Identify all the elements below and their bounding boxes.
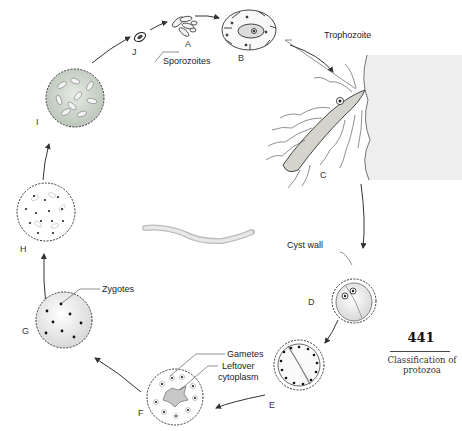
stage-label-a: A <box>185 39 191 49</box>
stage-label-e: E <box>269 400 275 410</box>
stage-label-h: H <box>20 244 27 254</box>
stage-label-i: I <box>36 117 39 127</box>
stage-i-mature-cyst <box>46 69 104 127</box>
callout-cyst-wall: Cyst wall <box>287 240 323 250</box>
callout-leftover-cytoplasm-1: Leftover <box>222 361 255 371</box>
stage-a-sporozoites <box>171 15 197 38</box>
stage-j-oocyst <box>133 31 147 44</box>
stage-label-j: J <box>132 47 137 57</box>
stage-label-d: D <box>308 297 315 307</box>
stage-d-cyst <box>332 252 376 323</box>
stage-f-gametes <box>147 354 225 425</box>
callout-gametes: Gametes <box>227 349 264 359</box>
page-rule <box>390 351 450 352</box>
stage-h-cyst <box>17 183 75 241</box>
page-number: 441 <box>395 330 447 345</box>
callout-leftover-cytoplasm-2: cytoplasm <box>218 372 259 382</box>
stage-b-host-cells <box>222 10 276 50</box>
stage-c-trophozoite <box>266 40 462 188</box>
stage-e-cyst <box>274 340 324 390</box>
callout-sporozoites: Sporozoites <box>163 56 211 66</box>
callout-trophozoite: Trophozoite <box>324 30 371 40</box>
stage-label-b: B <box>238 53 244 63</box>
section-caption: Classification of protozoa <box>382 355 462 375</box>
callout-zygotes: Zygotes <box>102 284 134 294</box>
stage-label-f: F <box>138 408 144 418</box>
stage-label-c: C <box>320 170 327 180</box>
section-caption-line2: protozoa <box>382 365 462 375</box>
section-caption-line1: Classification of <box>382 355 462 365</box>
stage-label-g: G <box>22 326 29 336</box>
